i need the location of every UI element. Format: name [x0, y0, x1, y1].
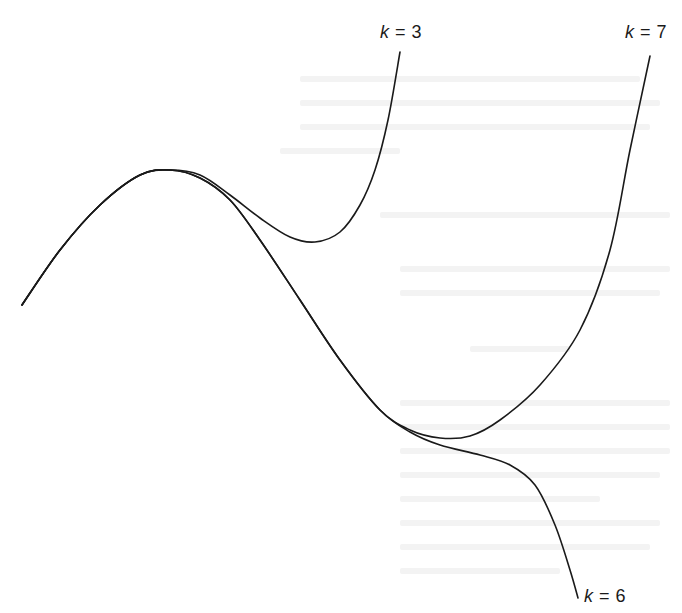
curve-k6	[22, 170, 578, 598]
label-k3-var: k	[380, 22, 390, 42]
label-k3: k = 3	[380, 22, 422, 43]
plot-area	[0, 0, 682, 613]
label-k7: k = 7	[625, 22, 667, 43]
curve-k3	[22, 52, 400, 305]
label-k6-eq: = 6	[594, 586, 627, 606]
label-k6: k = 6	[584, 586, 626, 607]
label-k7-var: k	[625, 22, 635, 42]
taylor-polynomial-figure: k = 3 k = 7 k = 6	[0, 0, 682, 613]
label-k7-eq: = 7	[635, 22, 668, 42]
label-k3-eq: = 3	[390, 22, 423, 42]
label-k6-var: k	[584, 586, 594, 606]
curve-k7	[22, 56, 650, 439]
